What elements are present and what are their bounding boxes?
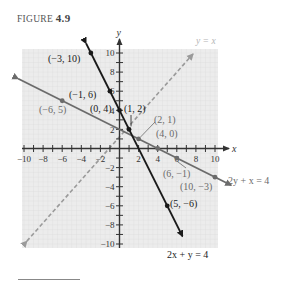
x-tick-label: −10 — [17, 154, 32, 164]
y-tick-label: −6 — [105, 201, 115, 211]
point-label: (1, 2) — [124, 103, 146, 115]
data-point — [88, 51, 93, 56]
y-tick-label: −2 — [105, 163, 115, 173]
data-point — [127, 127, 132, 132]
x-tick-label: −2 — [96, 154, 106, 164]
data-point — [136, 137, 141, 142]
x-tick-label: −6 — [57, 154, 67, 164]
point-label: (2, 1) — [154, 114, 176, 126]
equation-label-2y-plus-x: 2y + x = 4 — [228, 175, 269, 186]
data-point — [155, 146, 160, 151]
data-point — [174, 156, 179, 161]
point-label: (0, 4) — [90, 103, 112, 115]
data-point — [117, 108, 122, 113]
point-label: (10, −3) — [180, 181, 212, 193]
point-label: (5, −6) — [170, 198, 197, 210]
x-tick-label: 2 — [136, 154, 141, 164]
x-tick-label: 8 — [194, 154, 199, 164]
equation-label-y-equals-x: y = x — [195, 36, 216, 46]
data-point — [60, 98, 65, 103]
x-tick-label: 4 — [155, 154, 160, 164]
x-axis-label: x — [231, 143, 237, 154]
y-tick-label: −4 — [105, 182, 115, 192]
point-label: (4, 0) — [156, 128, 178, 140]
point-label: (6, −1) — [163, 168, 190, 180]
x-tick-label: −4 — [77, 154, 87, 164]
y-tick-label: −8 — [105, 220, 115, 230]
footnote-rule — [18, 279, 80, 280]
point-label: (−3, 10) — [48, 53, 80, 65]
data-point — [165, 203, 170, 208]
equation-label-2x-plus-y: 2x + y = 4 — [167, 249, 208, 260]
point-label: (−6, 5) — [39, 104, 66, 116]
y-tick-label: 10 — [106, 48, 116, 58]
x-tick-label: 10 — [211, 154, 221, 164]
y-tick-label: 8 — [110, 67, 115, 77]
x-tick-label: −8 — [38, 154, 48, 164]
data-point — [108, 89, 113, 94]
data-point — [213, 175, 218, 180]
y-axis-label: y — [116, 27, 122, 38]
point-label: (−1, 6) — [69, 89, 96, 101]
y-tick-label: −10 — [100, 239, 115, 249]
figure-plot: −10−8−6−4−2246810108642−2−4−6−8−10xy(−3,… — [0, 0, 299, 282]
